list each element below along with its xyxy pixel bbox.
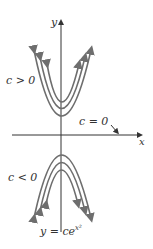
y-axis-label: y: [51, 16, 57, 29]
figure: y x c > 0 c = 0 c < 0 y = cex²: [0, 0, 153, 249]
label-c-zero: c = 0: [79, 115, 108, 128]
c-zero-pointer: [111, 125, 117, 132]
x-axis-label: x: [139, 136, 145, 147]
curves-c-negative: [34, 155, 91, 218]
label-c-positive: c > 0: [6, 74, 35, 87]
family-of-curves-plot: [0, 0, 153, 249]
label-c-negative: c < 0: [8, 171, 37, 184]
curves-c-positive: [34, 50, 91, 116]
equation-label: y = cex²: [40, 224, 82, 238]
